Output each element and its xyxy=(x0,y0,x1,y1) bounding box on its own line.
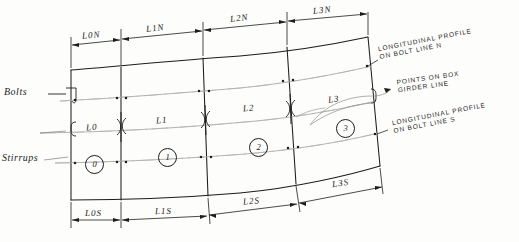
dim-label-L3N: L3N xyxy=(313,4,332,16)
mid-tick-1b xyxy=(122,118,126,134)
dim-line-L2N xyxy=(204,22,286,30)
segment-marker-3: 3 xyxy=(336,119,355,138)
dim-label-L2: L2 xyxy=(243,102,255,113)
stirrups-leader-2 xyxy=(44,157,68,160)
callout-leader-south xyxy=(377,130,388,134)
label-stirrups: Stirrups xyxy=(2,152,38,163)
dim-label-L1: L1 xyxy=(156,115,168,126)
dim-label-L3: L3 xyxy=(327,93,340,104)
mid-tick-2b xyxy=(206,111,210,127)
dim-line-L3S xyxy=(299,187,382,203)
segment-number-label: 3 xyxy=(337,123,354,133)
dim-line-L1S xyxy=(122,216,207,220)
dim-label-L0: L0 xyxy=(86,122,98,133)
profile-point-markers xyxy=(74,65,377,165)
dim-label-L2S: L2S xyxy=(243,195,261,207)
segment-marker-2: 2 xyxy=(249,138,268,157)
bolt-line-south xyxy=(55,133,378,163)
segment-marker-1: 1 xyxy=(158,148,177,167)
dim-line-L3N xyxy=(288,14,367,21)
mid-bracket-left xyxy=(71,122,76,136)
callout-leader-north xyxy=(368,60,378,66)
segment-number-label: 0 xyxy=(86,159,103,169)
dim-label-L0S: L0S xyxy=(85,208,102,218)
mid-tick-3a xyxy=(286,101,290,117)
bolt-line-north xyxy=(60,66,372,101)
segment-number-label: 2 xyxy=(250,142,267,152)
plate-top-edge xyxy=(71,37,368,70)
segment-marker-0: 0 xyxy=(85,155,104,174)
dim-label-L0N: L0N xyxy=(82,29,101,41)
engineering-diagram-canvas: Bolts Stirrups L0N L1N L2N L3N L0 L1 L2 … xyxy=(0,0,519,242)
label-bolts: Bolts xyxy=(4,86,27,97)
dim-line-L0N xyxy=(72,40,120,45)
dim-label-L1S: L1S xyxy=(155,206,172,217)
mid-tick-1a xyxy=(117,119,121,135)
segment-number-label: 1 xyxy=(159,152,176,162)
